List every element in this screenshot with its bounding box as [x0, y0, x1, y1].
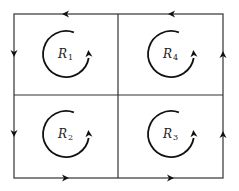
region-r2: R2	[43, 111, 92, 157]
region-r4: R4	[148, 31, 197, 77]
green-theorem-diagram: R1R4R2R3	[0, 0, 239, 191]
region-label: R4	[162, 47, 178, 62]
region-r1: R1	[43, 31, 92, 77]
circulation-arrow-icon	[85, 50, 93, 58]
region-label: R3	[162, 127, 178, 142]
region-r3: R3	[148, 111, 197, 157]
region-label: R2	[57, 127, 73, 142]
circulation-arrow-icon	[85, 130, 93, 138]
circulation-arrow-icon	[190, 50, 198, 58]
region-label: R1	[57, 47, 73, 62]
regions: R1R4R2R3	[43, 31, 197, 157]
circulation-arrow-icon	[190, 130, 198, 138]
divider-lines	[14, 14, 223, 178]
